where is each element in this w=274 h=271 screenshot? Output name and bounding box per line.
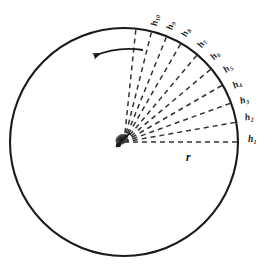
ray-label-h10: h10 xyxy=(150,15,161,27)
diagram-svg xyxy=(0,0,274,271)
radial-rays-group xyxy=(124,29,238,142)
ray-label-subscript: 9 xyxy=(171,21,178,25)
radial-ray-h4 xyxy=(124,85,223,142)
radial-ray-h3 xyxy=(124,103,231,142)
figure-canvas: h1h2h3h4h5h6h7h8h9h10 r xyxy=(0,0,274,271)
ray-label-subscript: 1 xyxy=(253,139,256,145)
radial-ray-h8 xyxy=(124,36,167,142)
radial-ray-h5 xyxy=(124,69,211,142)
radius-label: r xyxy=(186,152,190,164)
ray-label-h1: h1 xyxy=(248,135,256,145)
ray-label-h2: h2 xyxy=(244,112,253,123)
ray-label-subscript: 10 xyxy=(155,15,162,21)
counterclockwise-arrow xyxy=(94,49,143,56)
